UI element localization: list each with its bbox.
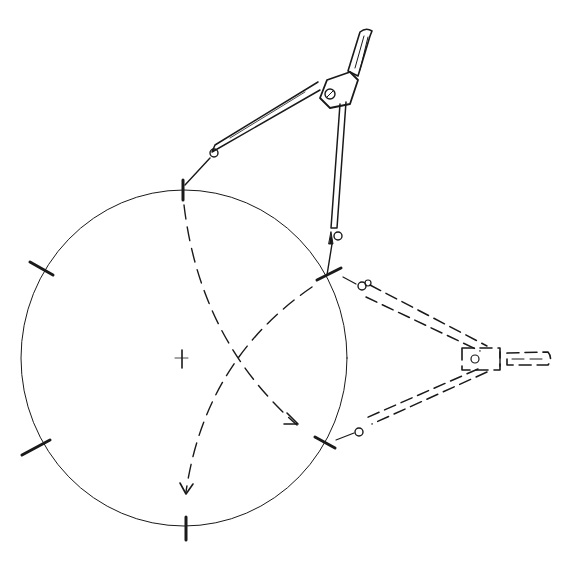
compass-dashed-screw-lower — [355, 428, 363, 436]
compass-solid — [185, 29, 372, 275]
arc-from-top — [184, 205, 298, 425]
compass-dashed — [366, 285, 551, 424]
arc-from-upper-right — [180, 287, 312, 494]
compass-leg-left — [185, 82, 320, 185]
division-mark-upper-left — [30, 262, 53, 275]
compass-hinge — [320, 72, 358, 108]
compass-dashed-details — [336, 277, 500, 440]
compass-leg-screw — [334, 232, 342, 240]
compass-handle — [348, 29, 372, 76]
center-mark — [175, 350, 188, 368]
compass-dashed-handle — [507, 352, 551, 365]
division-mark-lower-right — [315, 437, 335, 448]
compass-dashed-screw-upper-2 — [365, 280, 371, 286]
compass-dashed-leg-lower — [366, 369, 487, 424]
illustration-canvas — [0, 0, 577, 561]
compass-dashed-leg-upper — [366, 285, 487, 351]
division-mark-upper-right — [317, 268, 341, 280]
compass-leg-right — [327, 102, 346, 275]
compass-dashed-hinge — [462, 348, 500, 370]
compass-circle-illustration — [0, 0, 577, 561]
